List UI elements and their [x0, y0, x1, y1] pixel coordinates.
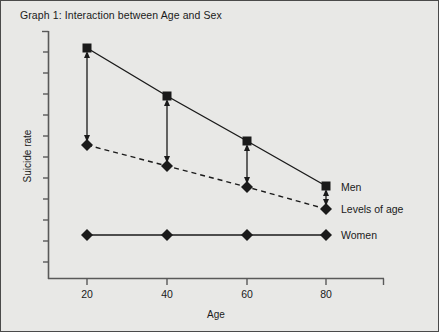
data-point-women-60: [241, 229, 253, 241]
y-axis-title: Suicide rate: [22, 129, 33, 182]
data-point-men-20: [83, 44, 92, 53]
x-tick-labels: 20 40 60 80: [81, 288, 332, 300]
legend-label-levels-of-age: Levels of age: [341, 203, 404, 215]
series-line-men: [87, 48, 326, 186]
series-markers-men: [83, 44, 331, 191]
data-point-levels-40: [161, 160, 173, 172]
y-axis: [42, 31, 49, 279]
legend: Men Levels of age Women: [341, 181, 404, 241]
x-axis-title: Age: [207, 309, 225, 320]
data-point-men-80: [322, 182, 331, 191]
annotation-arrow-age-20: [84, 51, 90, 142]
series-markers-levels-of-age: [81, 139, 332, 215]
x-tick-label-40: 40: [161, 288, 173, 300]
annotation-arrow-age-60: [244, 144, 250, 184]
data-point-women-80: [320, 229, 332, 241]
annotation-arrow-age-40: [164, 99, 170, 163]
x-tick-label-60: 60: [241, 288, 253, 300]
legend-label-men: Men: [341, 181, 362, 193]
data-point-women-40: [161, 229, 173, 241]
x-axis: [48, 279, 384, 286]
data-point-men-60: [243, 137, 252, 146]
data-point-levels-60: [241, 181, 253, 193]
series-line-levels-of-age: [87, 145, 326, 209]
x-tick-label-80: 80: [320, 288, 332, 300]
chart-plot-area: 20 40 60 80 Age Suicide rate: [1, 1, 439, 332]
data-point-levels-20: [81, 139, 93, 151]
legend-label-women: Women: [341, 229, 377, 241]
data-point-women-20: [81, 229, 93, 241]
data-point-levels-80: [320, 203, 332, 215]
x-tick-label-20: 20: [81, 288, 93, 300]
data-point-men-40: [163, 92, 172, 101]
chart-panel: Graph 1: Interaction between Age and Sex: [0, 0, 439, 332]
